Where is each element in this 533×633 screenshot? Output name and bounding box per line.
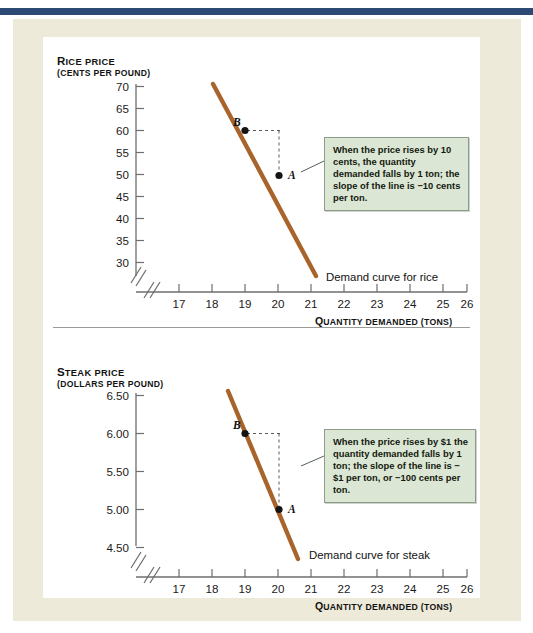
rice-x-axis-title-lead: Q [315,315,323,327]
figure-page: RICE PRICE (CENTS PER POUND) [0,0,533,633]
steak-xtick-23: 23 [363,582,391,595]
chart-rice: RICE PRICE (CENTS PER POUND) [43,39,480,324]
steak-callout: When the price rises by $1 the quantity … [324,429,476,503]
rice-ytick-65: 65 [93,102,129,115]
rice-x-axis-title: QUANTITY DEMANDED (TONS) [315,311,452,329]
steak-ytick-550: 5.50 [87,465,129,478]
rice-xtick-23: 23 [363,297,391,310]
rice-point-b-label: B [233,116,241,128]
rice-ytick-35: 35 [93,234,129,247]
rice-xtick-24: 24 [396,297,424,310]
steak-ytick-500: 5.00 [87,503,129,516]
rice-xtick-17: 17 [165,297,193,310]
rice-ytick-30: 30 [93,256,129,269]
rice-xtick-21: 21 [297,297,325,310]
rice-xtick-18: 18 [198,297,226,310]
rice-xtick-26: 26 [453,297,481,310]
steak-point-b-label: B [233,419,241,431]
rice-ytick-45: 45 [93,190,129,203]
steak-xtick-21: 21 [297,582,325,595]
page-accent-bar [0,8,533,15]
rice-point-a-label: A [288,169,296,181]
rice-ytick-50: 50 [93,168,129,181]
steak-xtick-22: 22 [330,582,358,595]
chart-steak: STEAK PRICE (DOLLARS PER POUND) [43,329,480,614]
rice-curve-label: Demand curve for rice [326,271,438,283]
rice-ytick-60: 60 [93,124,129,137]
steak-ytick-650: 6.50 [87,389,129,402]
steak-xtick-26: 26 [453,582,481,595]
steak-x-axis-title-rest: UANTITY DEMANDED (TONS) [323,602,452,612]
steak-xtick-19: 19 [231,582,259,595]
steak-ytick-450: 4.50 [87,541,129,554]
rice-xtick-22: 22 [330,297,358,310]
rice-callout: When the price rises by 10 cents, the qu… [324,137,469,211]
rice-ytick-55: 55 [93,146,129,159]
rice-xtick-20: 20 [264,297,292,310]
rice-x-axis-title-rest: UANTITY DEMANDED (TONS) [323,317,452,327]
steak-xtick-24: 24 [396,582,424,595]
figure-panel: RICE PRICE (CENTS PER POUND) [43,37,480,598]
steak-xtick-17: 17 [165,582,193,595]
steak-xtick-18: 18 [198,582,226,595]
steak-x-axis-title-lead: Q [315,600,323,612]
steak-point-a-label: A [288,503,296,515]
rice-ytick-40: 40 [93,212,129,225]
rice-ytick-70: 70 [93,80,129,93]
steak-xtick-20: 20 [264,582,292,595]
steak-x-axis-title: QUANTITY DEMANDED (TONS) [315,596,452,614]
rice-xtick-19: 19 [231,297,259,310]
steak-ytick-600: 6.00 [87,427,129,440]
steak-curve-label: Demand curve for steak [309,549,430,561]
